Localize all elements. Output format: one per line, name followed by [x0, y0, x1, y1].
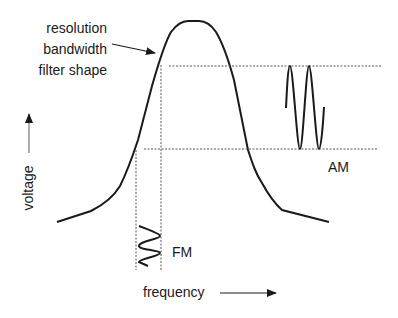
filter-label-line-3: filter shape [39, 62, 108, 78]
am-waveform [286, 66, 324, 149]
fm-waveform [139, 226, 160, 266]
fm-label: FM [172, 244, 192, 260]
filter-label-line-1: resolution [46, 20, 107, 36]
spectrum-diagram: resolution bandwidth filter shape AM FM … [0, 0, 398, 318]
filter-label-arrow [112, 44, 155, 53]
voltage-axis-label: voltage [20, 165, 36, 210]
frequency-axis-label: frequency [143, 284, 204, 300]
am-label: AM [328, 159, 349, 175]
filter-label-line-2: bandwidth [43, 41, 107, 57]
